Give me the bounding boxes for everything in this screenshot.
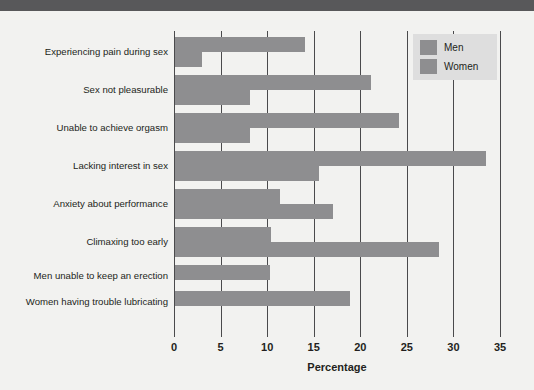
legend: Men Women [413, 34, 497, 80]
category-label: Unable to achieve orgasm [57, 122, 168, 133]
bar-women [175, 204, 333, 219]
x-axis-title: Percentage [307, 361, 366, 373]
bar-women [175, 52, 202, 67]
legend-swatch-men [420, 40, 437, 55]
bar-men [175, 265, 270, 280]
category-label: Experiencing pain during sex [45, 46, 168, 57]
bar-women [175, 90, 250, 105]
bar-women [175, 291, 350, 306]
category-label: Men unable to keep an erection [34, 270, 168, 281]
bar-men [175, 151, 486, 166]
category-axis-labels: Experiencing pain during sex Sex not ple… [0, 31, 168, 337]
category-label: Women having trouble lubricating [26, 296, 168, 307]
x-tick-label: 10 [261, 341, 273, 353]
legend-swatch-women [420, 59, 437, 74]
bar-men [175, 189, 280, 204]
gridline [500, 31, 501, 337]
x-tick-label: 30 [447, 341, 459, 353]
bar-men [175, 75, 371, 90]
page-top-band [0, 0, 534, 11]
x-tick-label: 0 [171, 341, 177, 353]
category-label: Climaxing too early [86, 236, 168, 247]
bar-women [175, 128, 250, 143]
gridline [407, 31, 408, 337]
category-label: Lacking interest in sex [73, 160, 168, 171]
bar-women [175, 242, 439, 257]
x-tick-label: 20 [354, 341, 366, 353]
legend-label-men: Men [444, 40, 463, 55]
legend-label-women: Women [444, 59, 478, 74]
bar-women [175, 166, 319, 181]
bar-men [175, 37, 305, 52]
bar-men [175, 227, 271, 242]
x-tick-label: 25 [401, 341, 413, 353]
bar-men [175, 113, 399, 128]
chart-screenshot: Experiencing pain during sex Sex not ple… [0, 0, 534, 390]
x-tick-label: 5 [218, 341, 224, 353]
x-tick-label: 15 [308, 341, 320, 353]
category-label: Anxiety about performance [53, 198, 168, 209]
x-tick-label: 35 [494, 341, 506, 353]
category-label: Sex not pleasurable [83, 84, 168, 95]
